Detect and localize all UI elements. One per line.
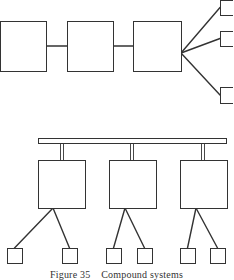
unit-a-leaf-1 — [8, 249, 23, 264]
branch-line — [188, 208, 197, 248]
branch-line — [15, 208, 54, 248]
branch-line — [196, 208, 218, 248]
fan-connector — [181, 53, 220, 95]
figure-caption: Figure 35 Compound systems — [0, 269, 233, 280]
unit-c-leaf-1 — [181, 249, 196, 264]
unit-c-box — [181, 161, 228, 209]
branch-line — [114, 208, 126, 248]
unit-a-leaf-2 — [63, 249, 78, 264]
unit-b-leaf-1 — [107, 249, 122, 264]
fan-box-3 — [221, 88, 234, 104]
compound-systems-diagram — [0, 0, 233, 279]
unit-c-leaf-2 — [211, 249, 226, 264]
fan-box-2 — [221, 32, 234, 47]
unit-b-box — [110, 161, 157, 209]
serial-chain-system — [1, 1, 234, 104]
branch-line — [53, 208, 70, 248]
chain-box-2 — [68, 22, 114, 72]
unit-a-box — [39, 161, 86, 209]
bus-bar — [39, 139, 227, 144]
bus-hierarchy-system — [8, 139, 228, 264]
unit-b-leaf-2 — [138, 249, 153, 264]
branch-line — [125, 208, 145, 248]
chain-box-1 — [1, 22, 47, 72]
chain-box-3 — [134, 22, 182, 72]
fan-box-1 — [221, 1, 234, 16]
